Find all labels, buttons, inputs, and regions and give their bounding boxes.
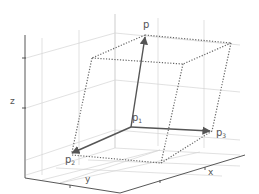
axis-label-z: z bbox=[10, 96, 15, 106]
label-p: p bbox=[143, 19, 149, 30]
vector-p1-p2 bbox=[72, 127, 131, 153]
axis-label-y: y bbox=[85, 174, 91, 184]
label-p2: p2 bbox=[65, 154, 75, 166]
x-axis-line bbox=[120, 155, 245, 193]
axis-grid bbox=[26, 14, 240, 183]
parallelepiped-diagram: p p1 p2 p3 z y x bbox=[0, 0, 259, 194]
parallelepiped-edges bbox=[72, 35, 231, 163]
label-p3: p3 bbox=[216, 127, 226, 139]
label-p1: p1 bbox=[132, 112, 142, 124]
axis-label-x: x bbox=[208, 167, 214, 177]
vector-p1-p3 bbox=[131, 127, 210, 131]
